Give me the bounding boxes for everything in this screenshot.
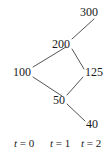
- time-value-text: = 1: [53, 137, 70, 149]
- tree-edge-n200-to-n125: [72, 49, 84, 69]
- node-value-125: 125: [85, 66, 103, 78]
- time-label-t1: t = 1: [50, 138, 70, 149]
- time-label-t2: t = 2: [81, 138, 101, 149]
- tree-edge-n50-to-n125: [67, 77, 83, 95]
- time-value-text: = 0: [17, 137, 34, 149]
- node-value-50: 50: [53, 94, 65, 106]
- time-value-text: = 2: [84, 137, 101, 149]
- node-value-100: 100: [13, 66, 31, 78]
- time-label-t0: t = 0: [14, 138, 34, 149]
- tree-edge-n50-to-n40: [67, 104, 85, 121]
- binomial-tree-diagram: 1002005030012540 t = 0t = 1t = 2: [0, 0, 111, 155]
- tree-edge-n200-to-n300: [72, 19, 94, 39]
- node-value-40: 40: [86, 118, 98, 130]
- node-value-300: 300: [80, 6, 98, 18]
- node-value-200: 200: [52, 38, 70, 50]
